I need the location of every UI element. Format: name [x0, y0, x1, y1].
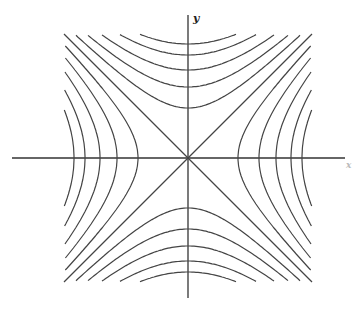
saddle-diagram	[0, 0, 354, 317]
x-axis-label: x	[346, 160, 351, 170]
y-axis-label: y	[193, 12, 199, 25]
